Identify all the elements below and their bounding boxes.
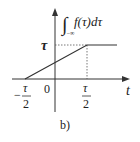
x-tick-neg-denominator: 2	[23, 97, 29, 111]
integrand: f(τ)dτ	[74, 14, 103, 29]
x-tick-pos-numerator: τ	[83, 81, 88, 95]
y-tick-tau: τ	[41, 38, 48, 53]
integral-curve	[25, 45, 117, 79]
integral-diagram: ∫ −∞ f(τ)dτ τ t 0 − τ 2 τ 2 b)	[0, 0, 140, 142]
integral-lower-limit: −∞	[66, 30, 75, 36]
y-axis-arrow-icon	[52, 8, 58, 16]
x-axis-arrow-icon	[122, 76, 130, 82]
origin-label: 0	[44, 82, 50, 96]
x-tick-neg-numerator: τ	[23, 81, 28, 95]
x-axis-label: t	[126, 83, 131, 98]
x-tick-pos-denominator: 2	[83, 97, 89, 111]
x-tick-minus-sign: −	[14, 88, 21, 102]
figure-caption: b)	[60, 118, 70, 132]
